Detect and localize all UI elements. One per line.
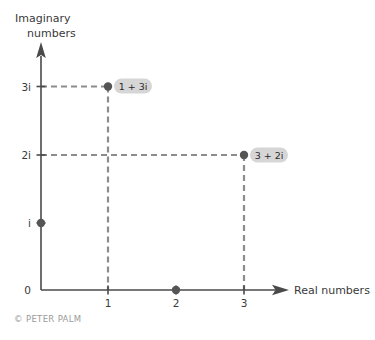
y-tick-label-0: 0 xyxy=(24,284,31,296)
x-axis-title: Real numbers xyxy=(294,284,370,297)
annotation-label-1-plus-3i: 1 + 3i xyxy=(119,81,148,92)
figure-canvas: 3i 2i i 0 1 2 3 Imaginary numbers Real n… xyxy=(0,0,375,340)
y-tick-label-2i: 2i xyxy=(21,149,31,161)
data-point-2[interactable] xyxy=(172,286,180,294)
x-tick-label-3: 3 xyxy=(241,297,248,309)
y-axis-arrowhead-icon xyxy=(36,42,46,58)
annotation-badge-3-plus-2i[interactable]: 3 + 2i xyxy=(250,148,288,163)
data-point-1-plus-3i[interactable] xyxy=(104,82,112,90)
data-point-3-plus-2i[interactable] xyxy=(240,151,248,159)
complex-plane-figure: 3i 2i i 0 1 2 3 Imaginary numbers Real n… xyxy=(0,0,375,340)
y-axis-title-line1: Imaginary xyxy=(15,12,71,25)
y-tick-label-i: i xyxy=(28,217,31,229)
x-tick-label-1: 1 xyxy=(105,297,112,309)
y-tick-label-3i: 3i xyxy=(21,81,31,93)
x-tick-label-2: 2 xyxy=(173,297,180,309)
credit-text: © PETER PALM xyxy=(14,314,82,324)
data-point-i[interactable] xyxy=(37,219,45,227)
annotation-label-3-plus-2i: 3 + 2i xyxy=(255,150,284,161)
y-axis-title-line2: numbers xyxy=(27,27,76,40)
annotation-badge-1-plus-3i[interactable]: 1 + 3i xyxy=(114,79,152,94)
